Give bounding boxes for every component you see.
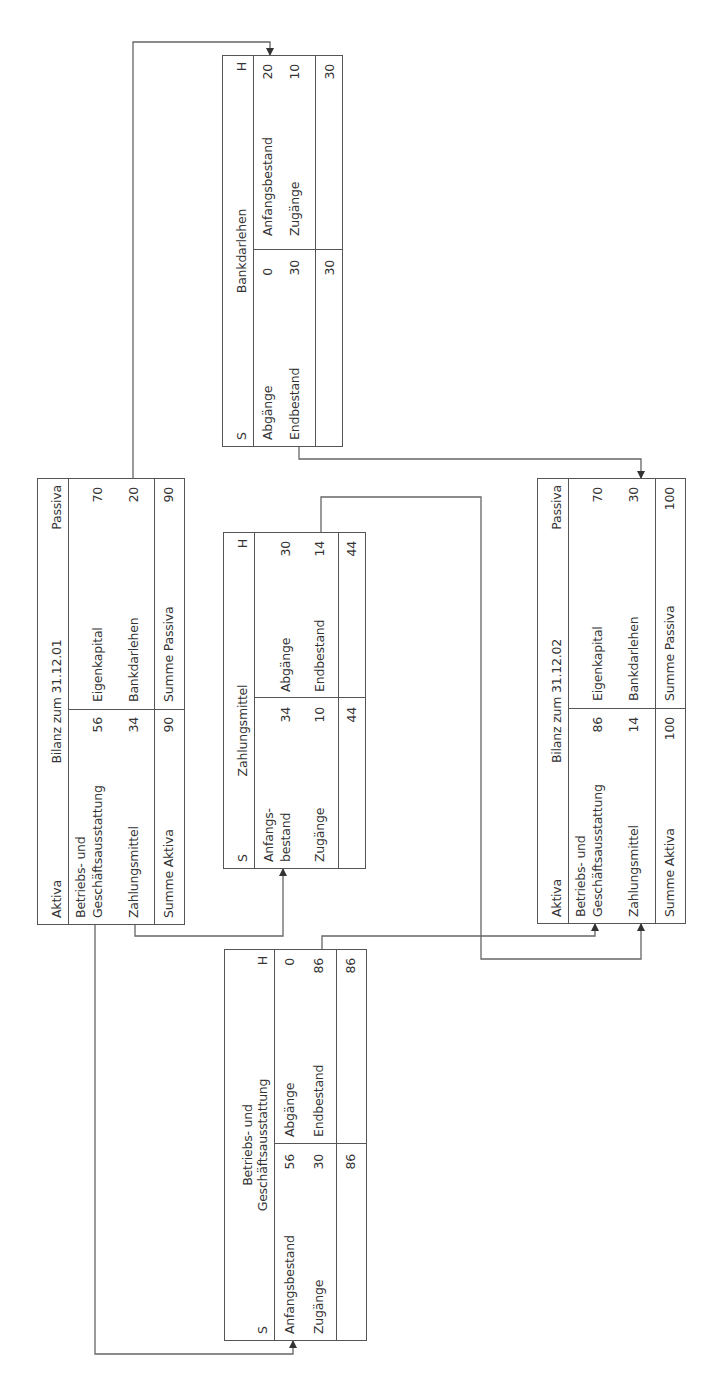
haben-label: H [235, 539, 250, 548]
account-zahlungsmittel: S Zahlungsmittel H Anfangs- bestand 34 Z… [223, 532, 366, 869]
sum-aktiva-label: Summe Aktiva [662, 828, 677, 917]
soll-row-label: Zugänge [311, 1280, 326, 1334]
sum-aktiva-value: 100 [662, 717, 677, 740]
soll-row-label: Zugänge [312, 808, 327, 862]
account-bankdarlehen: S Bankdarlehen H Abgänge 0 Endbestand 30… [222, 55, 343, 447]
passiva-item-label: Eigenkapital [590, 626, 605, 701]
haben-label: H [255, 956, 270, 965]
aktiva-item-label: Betriebs- und [73, 836, 88, 918]
passiva-item-label: Bankdarlehen [626, 617, 641, 701]
arrow-loan-closing [299, 447, 641, 478]
soll-row-value: 10 [312, 707, 327, 723]
balance-sheet-01: Aktiva Bilanz zum 31.12.01 Passiva Betri… [37, 478, 185, 925]
haben-total: 86 [343, 958, 358, 974]
account-zahlungsmittel-title: Zahlungsmittel [235, 533, 250, 868]
passiva-item-value: 70 [90, 487, 105, 503]
soll-row-value: 56 [282, 1154, 297, 1170]
haben-total: 44 [344, 541, 359, 557]
soll-total: 44 [344, 707, 359, 723]
aktiva-item-value: 14 [626, 717, 641, 733]
account-bga-title-line2: Geschäftsausstattung [255, 950, 270, 1340]
aktiva-item-label: Betriebs- und [573, 835, 588, 917]
account-bga-title: Betriebs- und Geschäftsausstattung [240, 950, 270, 1340]
t-account-divider [69, 709, 185, 710]
haben-row-value: 30 [278, 541, 293, 557]
haben-row-label: Endbestand [311, 1065, 326, 1137]
soll-row-value: 30 [311, 1154, 326, 1170]
balance-sheet-02: Aktiva Bilanz zum 31.12.02 Passiva Betri… [537, 478, 686, 924]
haben-row-label: Abgänge [278, 638, 293, 692]
account-bankdarlehen-header: S Bankdarlehen H [223, 56, 254, 446]
aktiva-item-label: Zahlungsmittel [126, 826, 141, 918]
sum-aktiva-value: 90 [161, 717, 176, 733]
sum-passiva-value: 90 [161, 487, 176, 503]
haben-row-label: Endbestand [312, 620, 327, 692]
soll-row-label: Endbestand [287, 368, 302, 440]
account-bankdarlehen-title: Bankdarlehen [234, 56, 249, 446]
passiva-item-label: Bankdarlehen [126, 618, 141, 702]
totals-divider [315, 56, 316, 446]
passiva-item-value: 20 [126, 487, 141, 503]
totals-divider [154, 479, 155, 924]
haben-row-value: 86 [311, 958, 326, 974]
t-account-divider [254, 249, 343, 250]
soll-row-label: Abgänge [260, 386, 275, 440]
account-zahlungsmittel-header: S Zahlungsmittel H [224, 533, 255, 868]
sum-passiva-label: Summe Passiva [662, 606, 677, 701]
soll-row-value: 34 [278, 707, 293, 723]
haben-row-label: Zugänge [287, 182, 302, 236]
totals-divider [336, 950, 337, 1340]
account-bga-header: S Betriebs- und Geschäftsausstattung H [225, 950, 275, 1340]
passiva-item-value: 70 [590, 487, 605, 503]
aktiva-item-value: 86 [590, 717, 605, 733]
passiva-item-label: Eigenkapital [90, 627, 105, 702]
soll-row-label: Anfangs- [261, 808, 276, 862]
aktiva-item-label: Zahlungsmittel [626, 825, 641, 917]
soll-row-value: 30 [287, 260, 302, 276]
soll-row-label: bestand [278, 813, 293, 862]
sum-aktiva-label: Summe Aktiva [161, 829, 176, 918]
sum-passiva-value: 100 [662, 487, 677, 510]
balance-sheet-02-header: Aktiva Bilanz zum 31.12.02 Passiva [538, 479, 569, 923]
account-flow-diagram: Aktiva Bilanz zum 31.12.01 Passiva Betri… [0, 0, 725, 1389]
haben-row-value: 0 [282, 958, 297, 966]
balance-sheet-01-title: Bilanz zum 31.12.01 [49, 479, 64, 924]
soll-total: 86 [343, 1154, 358, 1170]
aktiva-item-value: 56 [90, 717, 105, 733]
soll-row-label: Anfangsbestand [282, 1235, 297, 1334]
t-account-divider [255, 697, 366, 698]
aktiva-item-label: Geschäftsausstattung [590, 784, 605, 917]
aktiva-item-label: Geschäftsausstattung [90, 785, 105, 918]
haben-row-value: 10 [287, 64, 302, 80]
arrow-bga-closing [322, 924, 595, 949]
passiva-label: Passiva [549, 485, 564, 530]
passiva-item-value: 30 [626, 487, 641, 503]
haben-row-label: Abgänge [282, 1083, 297, 1137]
totals-divider [338, 533, 339, 868]
soll-row-value: 0 [260, 268, 275, 276]
haben-row-value: 14 [312, 541, 327, 557]
passiva-label: Passiva [49, 485, 64, 530]
t-account-divider [569, 708, 686, 709]
haben-total: 30 [322, 64, 337, 80]
account-bga-title-line1: Betriebs- und [240, 950, 255, 1340]
sum-passiva-label: Summe Passiva [161, 607, 176, 702]
t-account-divider [275, 1143, 367, 1144]
account-bga: S Betriebs- und Geschäftsausstattung H A… [224, 949, 367, 1341]
haben-row-value: 20 [260, 64, 275, 80]
totals-divider [655, 479, 656, 923]
haben-row-label: Anfangsbestand [260, 137, 275, 236]
soll-total: 30 [322, 260, 337, 276]
haben-label: H [234, 62, 249, 71]
aktiva-item-value: 34 [126, 717, 141, 733]
balance-sheet-02-title: Bilanz zum 31.12.02 [549, 479, 564, 923]
balance-sheet-01-header: Aktiva Bilanz zum 31.12.01 Passiva [38, 479, 69, 924]
